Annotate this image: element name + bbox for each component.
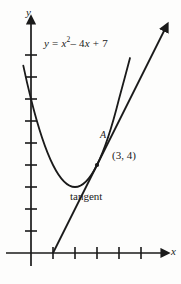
equation-variable-x2: x	[85, 37, 90, 49]
point-coordinates-label: (3, 4)	[112, 150, 136, 161]
parabola-curve	[23, 58, 130, 187]
x-axis-label: x	[171, 246, 176, 257]
tangent-line	[53, 29, 165, 253]
equation-label: y = x2– 4x + 7	[44, 38, 108, 49]
figure-canvas: y x y = x2– 4x + 7 A (3, 4) tangent	[0, 0, 181, 284]
equation-rest: – 4	[70, 37, 84, 49]
y-axis-label: y	[26, 7, 31, 18]
equation-tail: + 7	[93, 37, 108, 49]
tangency-point-marker	[95, 163, 99, 167]
point-a-label: A	[100, 130, 106, 140]
equation-lhs: y	[44, 37, 49, 49]
tangent-text-label: tangent	[70, 191, 102, 202]
equation-equals: =	[52, 37, 58, 49]
